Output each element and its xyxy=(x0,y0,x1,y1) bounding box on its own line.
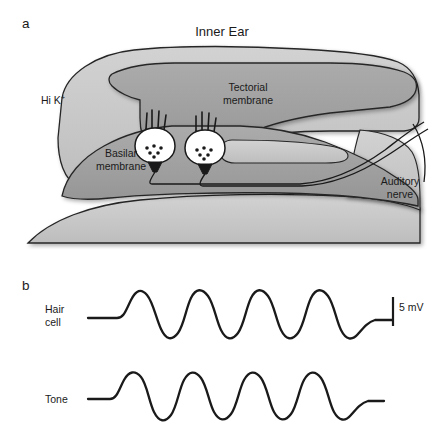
figure-root: a Inner Ear xyxy=(0,0,444,435)
label-hi-k-text: Hi K xyxy=(41,94,61,106)
scala-tympani-outer xyxy=(28,194,420,243)
panel-b-letter: b xyxy=(22,278,30,293)
label-basilar-line2: membrane xyxy=(96,160,146,172)
tone-trace-label-line1: Tone xyxy=(45,393,68,405)
panel-a-letter: a xyxy=(22,16,30,31)
label-hi-k-superscript: + xyxy=(61,93,66,102)
hair-cell-trace xyxy=(88,290,392,338)
scale-bar-label: 5 mV xyxy=(399,301,424,313)
label-tectorial-line2: membrane xyxy=(223,94,273,106)
panel-b: b Hair cell 5 mV Tone xyxy=(22,278,424,420)
label-basilar-line1: Basilar xyxy=(105,147,138,159)
figure-title: Inner Ear xyxy=(195,24,249,39)
label-auditory-line2: nerve xyxy=(387,188,413,200)
label-tectorial-line1: Tectorial xyxy=(228,81,267,93)
hair-cell-trace-label-line2: cell xyxy=(45,316,61,328)
panel-a: a Inner Ear xyxy=(22,16,428,243)
label-auditory-line1: Auditory xyxy=(381,175,420,187)
tone-trace xyxy=(88,372,384,420)
hair-cell-trace-label-line1: Hair xyxy=(45,303,65,315)
inner-ear-figure-svg: a Inner Ear xyxy=(0,0,444,435)
